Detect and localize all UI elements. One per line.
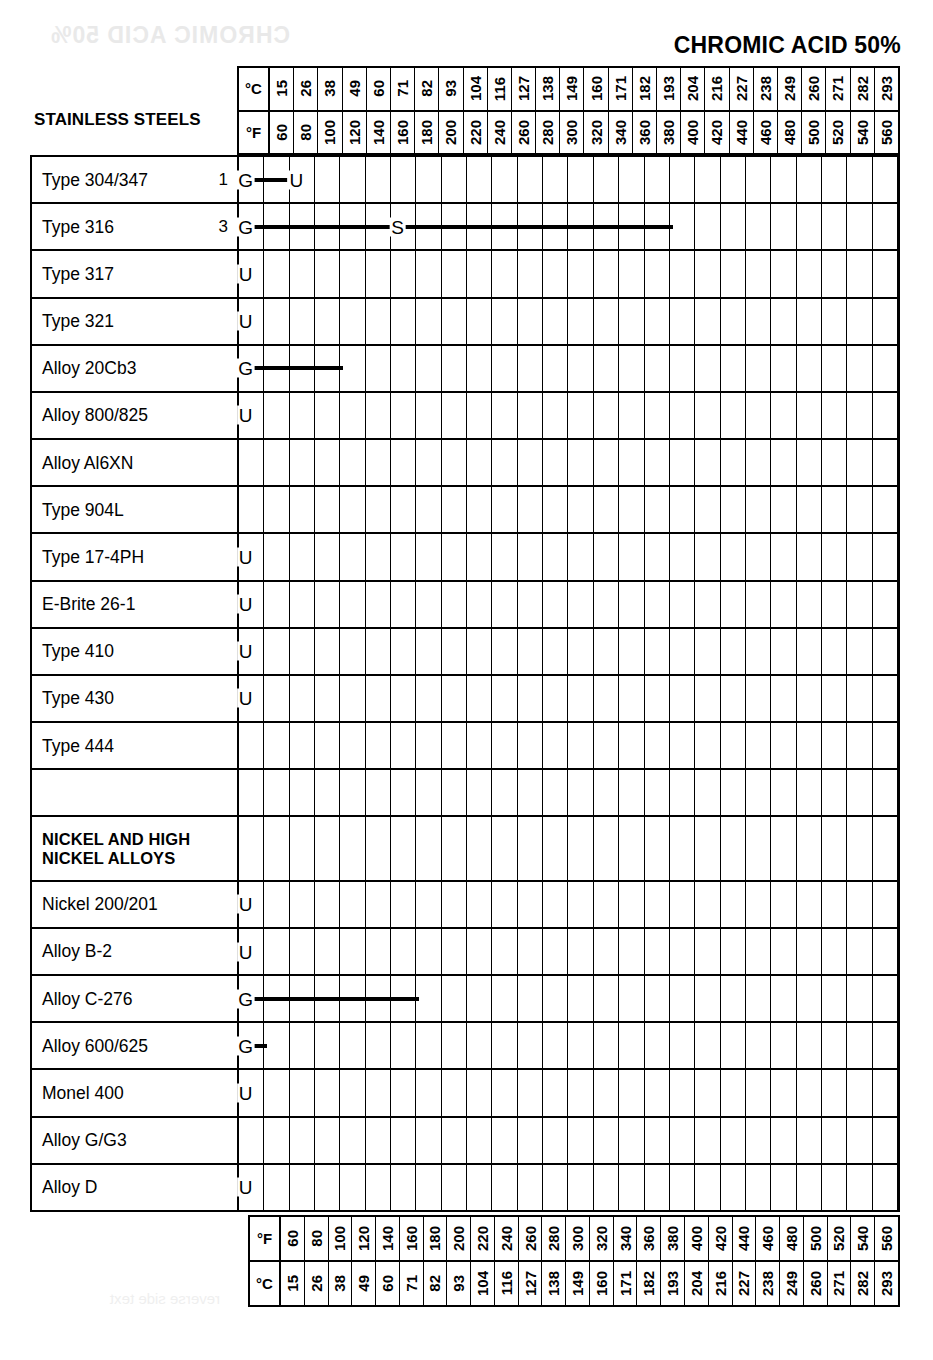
table-row: Type 430U xyxy=(32,676,898,723)
grid-column xyxy=(264,723,289,768)
tick-c-bottom-193: 193 xyxy=(661,1262,685,1305)
tick-c-bottom-71: 71 xyxy=(400,1262,424,1305)
grid-column xyxy=(619,929,644,974)
grid-column xyxy=(239,1023,264,1068)
tick-label: 220 xyxy=(475,1226,490,1251)
table-row: Type 317U xyxy=(32,251,898,298)
tick-label: 149 xyxy=(570,1271,585,1296)
bottom-fahrenheit-unit-label: °F xyxy=(250,1217,281,1260)
tick-label: 80 xyxy=(309,1230,324,1247)
tick-label: 480 xyxy=(784,1226,799,1251)
grid-column xyxy=(315,487,340,532)
row-label: Type 444 xyxy=(42,736,114,756)
row-grid-cell: U xyxy=(239,299,898,344)
grid-column xyxy=(442,582,467,627)
grid-column xyxy=(518,299,543,344)
grid-column xyxy=(467,534,492,579)
grid-column xyxy=(290,770,315,815)
grid-column xyxy=(391,393,416,438)
grid-column xyxy=(619,346,644,391)
grid-column xyxy=(264,251,289,296)
tick-c-bottom-26: 26 xyxy=(305,1262,329,1305)
grid-column xyxy=(746,251,771,296)
grid-column xyxy=(797,299,822,344)
tick-label: 200 xyxy=(443,120,458,145)
grid-column xyxy=(695,929,720,974)
grid-column xyxy=(645,1118,670,1163)
grid-column xyxy=(873,534,898,579)
grid-column xyxy=(873,629,898,674)
grid-column xyxy=(442,770,467,815)
grid-column xyxy=(721,299,746,344)
top-fahrenheit-row: °F 6080100120140160180200220240260280300… xyxy=(239,112,898,154)
tick-f-200: 200 xyxy=(439,112,463,154)
tick-label: 116 xyxy=(492,77,507,101)
tick-label: 320 xyxy=(589,120,604,145)
tick-label: 238 xyxy=(758,76,773,101)
grid-column xyxy=(467,440,492,485)
grid-column xyxy=(416,251,441,296)
grid-column xyxy=(594,487,619,532)
row-label: Nickel 200/201 xyxy=(42,894,158,914)
grid-column xyxy=(670,204,695,249)
grid-column xyxy=(543,1165,568,1210)
grid-column xyxy=(771,299,796,344)
grid-column xyxy=(771,157,796,202)
tick-c-bottom-93: 93 xyxy=(447,1262,471,1305)
grid-column xyxy=(366,157,391,202)
grid-column xyxy=(670,723,695,768)
grid-column xyxy=(670,1165,695,1210)
grid-column xyxy=(416,629,441,674)
grid-column xyxy=(239,817,264,879)
grid-column xyxy=(695,1023,720,1068)
grid-column xyxy=(619,629,644,674)
grid-column xyxy=(822,882,847,927)
tick-c-bottom-216: 216 xyxy=(709,1262,733,1305)
tick-f-260: 260 xyxy=(512,112,536,154)
tick-c-238: 238 xyxy=(754,68,778,110)
grid-column xyxy=(467,1118,492,1163)
row-label-cell: Alloy 800/825 xyxy=(32,393,239,438)
table-row: Monel 400U xyxy=(32,1070,898,1117)
grid-column xyxy=(645,629,670,674)
grid-column xyxy=(721,204,746,249)
grid-column xyxy=(721,534,746,579)
grid-column xyxy=(467,1165,492,1210)
grid-column xyxy=(543,393,568,438)
grid-column xyxy=(771,204,796,249)
grid-column xyxy=(543,1070,568,1115)
grid-column xyxy=(873,723,898,768)
grid-column xyxy=(771,929,796,974)
grid-column xyxy=(746,299,771,344)
row-label: Type 321 xyxy=(42,311,114,331)
grid-column xyxy=(290,346,315,391)
grid-column xyxy=(771,817,796,879)
tick-f-bottom-540: 540 xyxy=(851,1217,875,1260)
tick-c-216: 216 xyxy=(705,68,729,110)
grid-column xyxy=(797,929,822,974)
grid-column xyxy=(315,882,340,927)
grid-column xyxy=(645,882,670,927)
row-label-cell: Monel 400 xyxy=(32,1070,239,1115)
grid-column xyxy=(771,534,796,579)
tick-f-480: 480 xyxy=(778,112,802,154)
grid-column xyxy=(822,204,847,249)
tick-f-300: 300 xyxy=(560,112,584,154)
grid-column xyxy=(315,676,340,721)
grid-column xyxy=(366,487,391,532)
tick-f-bottom-240: 240 xyxy=(495,1217,519,1260)
grid-column xyxy=(873,1118,898,1163)
grid-column xyxy=(340,204,365,249)
grid-column xyxy=(340,487,365,532)
grid-column xyxy=(746,817,771,879)
grid-column xyxy=(290,251,315,296)
grid-column xyxy=(873,393,898,438)
tick-label: 38 xyxy=(322,80,337,97)
grid-column xyxy=(518,629,543,674)
grid-column xyxy=(492,817,517,879)
grid-column xyxy=(847,157,872,202)
tick-c-bottom-227: 227 xyxy=(733,1262,757,1305)
grid-column xyxy=(366,582,391,627)
tick-label: 220 xyxy=(468,120,483,145)
grid-column xyxy=(467,676,492,721)
